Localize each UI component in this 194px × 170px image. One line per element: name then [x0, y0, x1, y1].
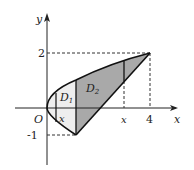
region-diagram: y x O 2 -1 4 x x D1 D2	[0, 0, 194, 170]
label-left-x: x	[59, 113, 65, 124]
y-axis-label: y	[35, 13, 43, 26]
label-right-x: x	[121, 114, 127, 125]
tick-y-neg1: -1	[27, 129, 38, 142]
tick-y-2: 2	[38, 47, 45, 60]
tick-x-4: 4	[146, 113, 153, 126]
x-axis-label: x	[174, 113, 181, 126]
origin-label: O	[34, 113, 43, 126]
